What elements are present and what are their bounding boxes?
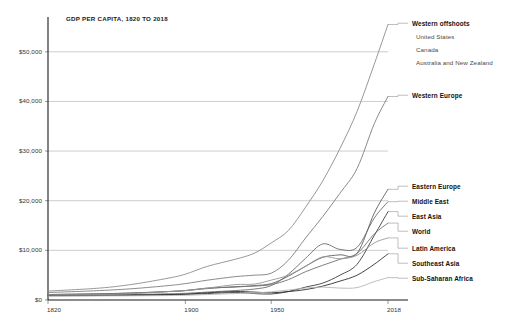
legend-item-western-offshoots[interactable]: Western offshoots <box>412 20 470 27</box>
y-axis-tick-label: $50,000 <box>2 48 42 55</box>
leader-line <box>388 278 408 279</box>
legend-item-east-asia[interactable]: East Asia <box>412 213 441 220</box>
leader-line <box>388 212 408 217</box>
x-axis-tick-label: 1950 <box>270 306 284 313</box>
gridlines <box>45 52 388 300</box>
leader-line <box>388 201 408 202</box>
y-axis-tick-label: $40,000 <box>2 97 42 104</box>
series-line-western-offshoots <box>48 24 388 291</box>
legend-subitem-canada: Canada <box>416 46 438 53</box>
leader-line <box>388 238 408 248</box>
legend-item-southeast-asia[interactable]: Southeast Asia <box>412 260 459 267</box>
leader-line <box>388 186 408 189</box>
y-axis-tick-label: $10,000 <box>2 246 42 253</box>
y-axis-tick-label: $0 <box>2 296 42 303</box>
x-tick-marks <box>48 300 388 304</box>
legend-item-western-europe[interactable]: Western Europe <box>412 92 462 99</box>
series-line-middle-east <box>48 202 388 296</box>
legend-item-latin-america[interactable]: Latin America <box>412 245 455 252</box>
legend-subitem-australia-and-new-zealand: Australia and New Zealand <box>416 59 493 66</box>
leader-line <box>388 95 408 96</box>
legend-subitem-united-states: United States <box>416 33 454 40</box>
legend-item-world[interactable]: World <box>412 228 431 235</box>
x-axis-tick-label: 1900 <box>184 306 198 313</box>
legend-leader-lines <box>388 23 408 278</box>
leader-line <box>388 223 408 231</box>
y-axis-tick-label: $30,000 <box>2 147 42 154</box>
series-line-latin-america <box>48 238 388 295</box>
x-axis-tick-label: 2018 <box>387 306 401 313</box>
series-lines <box>48 24 388 296</box>
x-axis-tick-label: 1820 <box>47 306 61 313</box>
leader-line <box>388 23 408 24</box>
legend-item-eastern-europe[interactable]: Eastern Europe <box>412 183 461 190</box>
axis-lines <box>48 17 408 300</box>
legend-item-sub-saharan-africa[interactable]: Sub-Saharan Africa <box>412 275 473 282</box>
legend-item-middle-east[interactable]: Middle East <box>412 198 449 205</box>
chart-container: GDP PER CAPITA, 1820 TO 2018 $0$10,000$2… <box>0 0 508 333</box>
leader-line <box>388 254 408 263</box>
series-line-east-asia <box>48 212 388 296</box>
y-axis-tick-label: $20,000 <box>2 197 42 204</box>
